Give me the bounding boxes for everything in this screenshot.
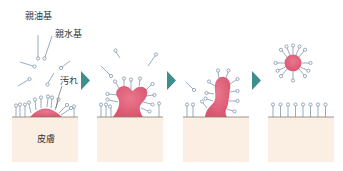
- dirt-leader-line: [56, 86, 62, 108]
- panel-2: [97, 49, 163, 162]
- dirt-blob: [113, 86, 147, 117]
- surfactant-diagram: 親油基 親水基 汚れ 皮膚: [0, 0, 343, 171]
- skin-block: [97, 117, 163, 162]
- panel-3: [183, 69, 249, 162]
- surfactant-molecules: [271, 103, 327, 117]
- skin-block: [268, 117, 334, 162]
- floating-molecules: [186, 82, 196, 92]
- label-dirt: 汚れ: [60, 77, 78, 86]
- floating-molecules: [101, 49, 158, 78]
- micelle: [274, 44, 312, 82]
- panel-4: [268, 44, 334, 162]
- label-skin: 皮膚: [37, 135, 55, 144]
- dirt-blob: [30, 109, 62, 118]
- skin-block: [183, 117, 249, 162]
- label-lipophilic-group: 親油基: [25, 12, 52, 21]
- arrow-right-icon: [167, 71, 176, 90]
- arrow-right-icon: [81, 71, 90, 90]
- arrow-right-icon: [252, 71, 261, 90]
- dirt-ball: [285, 55, 302, 72]
- label-hydrophilic-group: 親水基: [55, 30, 82, 39]
